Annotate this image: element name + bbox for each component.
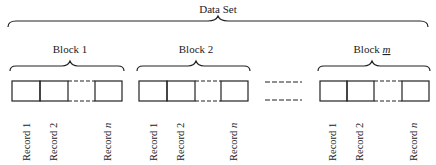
- data-set-brace: [8, 16, 428, 27]
- record-label: Record 2: [175, 123, 186, 161]
- data-set-title: Data Set: [199, 3, 237, 15]
- record-label: Record 2: [48, 123, 59, 161]
- record-label: Record 1: [21, 123, 32, 161]
- record-label: Record n: [408, 123, 419, 161]
- block-1-label: Block 1: [53, 43, 88, 55]
- block-2-records: [139, 81, 248, 101]
- record-box: [221, 81, 248, 101]
- block-1-brace: [10, 61, 124, 71]
- record-box: [40, 81, 68, 101]
- record-box: [347, 81, 374, 101]
- record-label: Record n: [228, 123, 239, 161]
- record-box: [139, 81, 167, 101]
- block-m-label: Block m: [354, 43, 391, 55]
- block-1-records: [12, 81, 122, 101]
- record-label: Record 1: [327, 123, 338, 161]
- block-m-records: [320, 81, 429, 101]
- block-2-brace: [137, 61, 250, 71]
- data-set-diagram: Data Set Block 1 Block 2 Block m Record …: [0, 0, 436, 165]
- record-label: Record 2: [354, 123, 365, 161]
- record-box: [95, 81, 122, 101]
- record-box: [320, 81, 347, 101]
- record-box: [167, 81, 195, 101]
- record-label: Record n: [102, 123, 113, 161]
- record-box: [12, 81, 40, 101]
- block-2-label: Block 2: [179, 43, 214, 55]
- record-label: Record 1: [148, 123, 159, 161]
- record-box: [402, 81, 429, 101]
- block-m-brace: [318, 61, 430, 71]
